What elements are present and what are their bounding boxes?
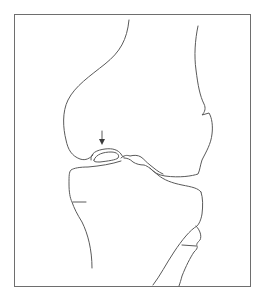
femur-left-outline (64, 20, 129, 160)
tibia-left-outline (69, 161, 121, 268)
joint-line-lower (124, 158, 201, 192)
diagram-canvas (0, 0, 262, 302)
fibula-head-outline (179, 226, 201, 286)
meniscus-outer (91, 149, 124, 160)
figure-frame (15, 15, 251, 287)
knee-joint-diagram: Knee joint lateral view line drawing (0, 0, 262, 302)
femur-right-outline (150, 26, 212, 177)
fibula-mark (182, 245, 196, 246)
tibia-right-outline (153, 192, 203, 285)
arrow-indicator-icon (99, 131, 105, 145)
meniscus-inner-oval (94, 152, 119, 162)
